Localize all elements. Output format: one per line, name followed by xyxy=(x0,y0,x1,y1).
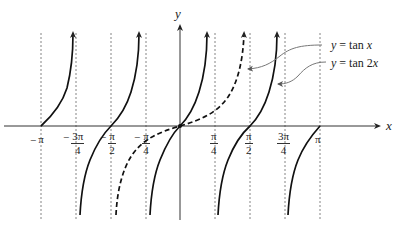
legend-tan2x: y = tan 2x xyxy=(331,56,378,71)
y-axis-label: y xyxy=(175,6,181,22)
tan2x-branch-2 xyxy=(80,34,139,215)
tick-3pi4: 3π4 xyxy=(277,131,290,156)
x-axis-label: x xyxy=(386,118,392,134)
tan2x-branch-3 xyxy=(150,34,207,215)
tick-neg-pi: −π xyxy=(30,134,44,146)
tick-pi4: π4 xyxy=(210,131,218,156)
minus-sign: − xyxy=(30,135,36,146)
chart-canvas xyxy=(0,0,408,236)
tick-pi: π xyxy=(315,134,321,145)
tick-neg-pi4: −π4 xyxy=(134,131,150,156)
tan2x-branch-4 xyxy=(218,34,277,215)
tick-neg-3pi4: −3π4 xyxy=(63,131,84,156)
tick-pi2: π2 xyxy=(245,131,253,156)
tan2x-branch-1 xyxy=(41,34,73,126)
tick-neg-pi2: −π2 xyxy=(100,131,116,156)
origin-point xyxy=(178,124,182,128)
legend-tanx: y = tan x xyxy=(331,38,372,53)
